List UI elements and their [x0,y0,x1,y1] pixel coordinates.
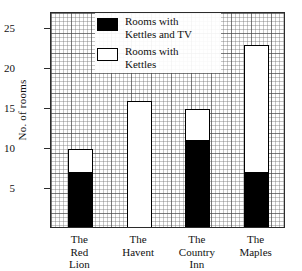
x-axis-label-line: Maples [221,246,291,259]
legend-label: Rooms with Kettles and TV [125,15,192,40]
bar-column [244,13,269,228]
x-axis-label-line: Lion [44,258,114,271]
bar-segment-kettles-and-tv [68,172,93,228]
bar-segment-kettles [68,149,93,173]
legend-swatch-filled [97,18,118,31]
bar-segment-kettles [127,101,152,228]
legend-swatch-hollow [97,48,118,61]
y-tick-label-25: 25 [0,23,15,34]
chart-legend: Rooms with Kettles and TVRooms with Kett… [95,13,221,73]
legend-item: Rooms with Kettles [97,45,219,70]
y-tick-label-20: 20 [0,63,15,74]
bar-segment-kettles [244,45,269,173]
bar-segment-kettles-and-tv [185,140,210,228]
x-axis-label-line: Inn [162,258,232,271]
legend-label: Rooms with Kettles [125,45,178,70]
legend-item: Rooms with Kettles and TV [97,15,219,40]
x-axis-label-line: The [221,233,291,246]
bar-segment-kettles-and-tv [244,172,269,228]
bar-chart-figure: No. of rooms 252015105 TheRedLionTheHave… [0,0,302,271]
bar-column [68,13,93,228]
y-tick-label-5: 5 [0,183,15,194]
bar-segment-kettles [185,109,210,141]
y-axis-title: No. of rooms [16,50,28,170]
y-tick-label-10: 10 [0,143,15,154]
y-tick-label-15: 15 [0,103,15,114]
x-axis-label-3: TheMaples [221,233,291,258]
